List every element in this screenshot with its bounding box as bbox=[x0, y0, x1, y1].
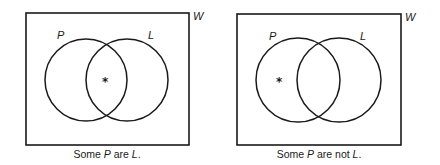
venn-diagram-some-p-are-not-l: W P L * Some P are not L. bbox=[237, 11, 417, 160]
set-l-label: L bbox=[360, 30, 366, 42]
set-p-label: P bbox=[269, 30, 277, 42]
existence-marker-asterisk: * bbox=[276, 75, 283, 89]
set-l-label: L bbox=[148, 29, 154, 41]
existence-marker-asterisk: * bbox=[102, 75, 109, 89]
caption-subject: P bbox=[307, 148, 314, 160]
set-p-label: P bbox=[57, 29, 65, 41]
caption-text: are not bbox=[314, 148, 353, 160]
caption-text: Some bbox=[277, 148, 307, 160]
venn-diagram-some-p-are-l: W P L * Some P are L. bbox=[26, 10, 205, 160]
universe-box bbox=[237, 14, 401, 145]
caption-text: Some bbox=[73, 148, 103, 160]
caption: Some P are L. bbox=[73, 148, 140, 160]
caption-text: are bbox=[111, 148, 132, 160]
universe-label: W bbox=[405, 11, 417, 23]
set-l-circle bbox=[297, 38, 381, 122]
caption-text: . bbox=[358, 148, 361, 160]
caption-text: . bbox=[138, 148, 141, 160]
universe-label: W bbox=[193, 10, 205, 22]
caption-subject: P bbox=[104, 148, 111, 160]
caption: Some P are not L. bbox=[277, 148, 362, 160]
venn-diagrams-canvas: W P L * Some P are L. W P L * Some P are… bbox=[0, 0, 440, 165]
set-p-circle bbox=[256, 38, 340, 122]
